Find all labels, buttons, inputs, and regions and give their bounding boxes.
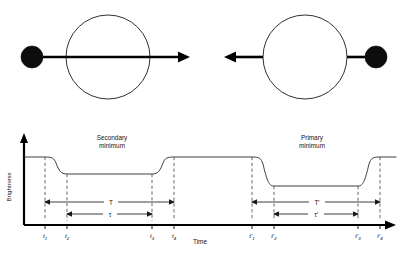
tick-label-t3-prime: t′3 (355, 232, 361, 241)
span-T-label: T (109, 199, 113, 206)
duration-span-T-prime: T′ (251, 197, 381, 208)
tick-label-t4-prime: t′4 (377, 232, 383, 241)
y-axis-title: Brightness (5, 172, 12, 201)
tick-label-t4: t4 (172, 232, 177, 241)
tick-label-t2-prime: t′2 (271, 232, 277, 241)
duration-span-tau-prime: τ′ (273, 209, 359, 220)
x-axis-arrow-head (385, 221, 396, 230)
secondary-minimum-annotation: Secondary minimum (97, 134, 128, 149)
primary-eclipse-panel (224, 15, 387, 99)
light-curve-chart: Brightness Time Secondary minimum Primar… (0, 125, 399, 255)
x-axis-tick-labels: t1 t2 t3 t4 t′1 t′2 t′3 t′4 (43, 232, 383, 241)
small-star-disk-left (21, 46, 43, 68)
primary-minimum-label-line2: minimum (299, 142, 325, 149)
tick-label-t3: t3 (150, 232, 155, 241)
small-star-disk-right (365, 46, 387, 68)
span-T-prime-label: T′ (314, 199, 320, 206)
motion-arrow-head-left (178, 52, 190, 63)
tick-label-t1: t1 (43, 232, 48, 241)
motion-arrow-head-right (224, 52, 236, 63)
duration-span-tau: τ (66, 209, 153, 220)
y-axis-arrow-head (20, 133, 28, 143)
large-star-circle-right (263, 15, 347, 99)
primary-minimum-label-line1: Primary (301, 134, 324, 142)
eclipsing-binary-figure: Brightness Time Secondary minimum Primar… (0, 0, 399, 255)
tick-label-t2: t2 (65, 232, 70, 241)
contact-time-markers (45, 157, 380, 221)
secondary-minimum-label-line1: Secondary (97, 134, 128, 142)
brightness-curve (24, 157, 396, 186)
duration-span-T: T (44, 197, 175, 208)
chart-axes (20, 133, 396, 230)
secondary-eclipse-panel (21, 15, 190, 99)
tick-label-t1-prime: t′1 (249, 232, 255, 241)
secondary-minimum-label-line2: minimum (99, 142, 125, 149)
eclipse-diagram (0, 0, 399, 125)
x-axis-title: Time (193, 238, 207, 245)
primary-minimum-annotation: Primary minimum (299, 134, 325, 149)
